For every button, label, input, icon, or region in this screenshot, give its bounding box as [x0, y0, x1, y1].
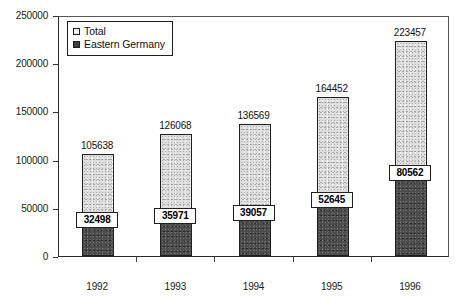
x-tick-label-1992: 1992 — [67, 282, 127, 292]
bar-value-label-total-1995: 164452 — [302, 84, 362, 94]
bar-value-label-eastern-germany-1992: 32498 — [76, 212, 118, 228]
legend-label-eastern-germany: Eastern Germany — [84, 39, 165, 50]
bar-group-1992 — [82, 154, 114, 256]
y-tick-label: 50000 — [21, 204, 48, 214]
bar-segment-eastern-germany-1992 — [82, 225, 114, 256]
bar-value-label-total-1994: 136569 — [224, 111, 284, 121]
bar-group-1996 — [395, 41, 427, 256]
bar-segment-eastern-germany-1994 — [239, 218, 271, 256]
bar-value-label-eastern-germany-1995: 52645 — [311, 192, 353, 208]
bar-group-1995 — [317, 97, 349, 256]
bar-value-label-eastern-germany-1994: 39057 — [233, 205, 275, 221]
y-tick-label: 100000 — [16, 156, 48, 166]
bar-segment-eastern-germany-1993 — [160, 221, 192, 256]
bar-value-label-eastern-germany-1996: 80562 — [389, 165, 431, 181]
bar-value-label-total-1992: 105638 — [67, 141, 127, 151]
y-tick-label: 150000 — [16, 107, 48, 117]
bar-value-label-total-1996: 223457 — [380, 28, 440, 38]
legend-item-eastern-germany: Eastern Germany — [73, 38, 165, 51]
y-axis: 050000100000150000200000250000 — [0, 0, 56, 306]
y-tick-label: 200000 — [16, 59, 48, 69]
bar-value-label-total-1993: 126068 — [145, 121, 205, 131]
bar-group-1994 — [239, 124, 271, 256]
y-tick-label: 250000 — [16, 11, 48, 21]
x-tick-label-1994: 1994 — [224, 282, 284, 292]
y-tick-mark — [53, 257, 58, 258]
legend-swatch-eastern-germany-icon — [73, 41, 80, 48]
x-tick-label-1996: 1996 — [380, 282, 440, 292]
bar-group-1993 — [160, 134, 192, 256]
legend-label-total: Total — [84, 26, 106, 37]
stacked-bar-chart: 050000100000150000200000250000 199219931… — [0, 0, 460, 306]
chart-legend: Total Eastern Germany — [67, 21, 173, 56]
x-tick-mark — [214, 257, 215, 262]
y-tick-label: 0 — [43, 252, 48, 262]
x-tick-label-1995: 1995 — [302, 282, 362, 292]
x-tick-label-1993: 1993 — [145, 282, 205, 292]
x-axis: 19921993199419951996 — [0, 282, 460, 302]
legend-item-total: Total — [73, 25, 165, 38]
bar-segment-eastern-germany-1995 — [317, 205, 349, 256]
x-tick-mark — [136, 257, 137, 262]
bar-segment-eastern-germany-1996 — [395, 178, 427, 256]
x-tick-mark — [371, 257, 372, 262]
x-tick-mark — [293, 257, 294, 262]
bar-value-label-eastern-germany-1993: 35971 — [154, 208, 196, 224]
legend-swatch-total-icon — [73, 28, 80, 35]
